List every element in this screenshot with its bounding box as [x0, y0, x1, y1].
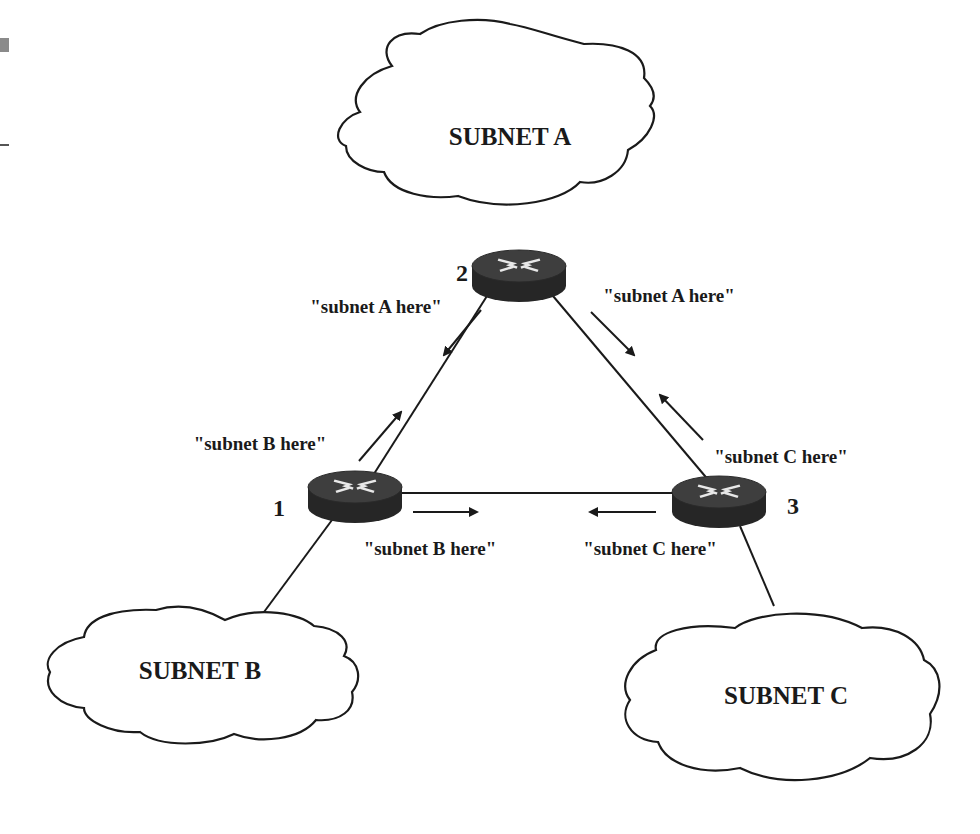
edge-artifact-square	[0, 38, 9, 52]
diagram-canvas: SUBNET A SUBNET B SUBNET C 2 1 3 "subnet…	[0, 0, 980, 834]
subnet-c-label: SUBNET C	[724, 682, 848, 709]
adv-label-3-to-1: "subnet C here"	[583, 538, 717, 559]
cloud-subnet-b: SUBNET B	[48, 607, 358, 744]
router-3	[672, 476, 766, 528]
router-3-number: 3	[787, 493, 799, 519]
link-1-subnet-b	[264, 520, 332, 612]
router-2-number: 2	[456, 260, 468, 286]
cloud-subnet-a: SUBNET A	[338, 20, 654, 204]
adv-label-3-to-2: "subnet C here"	[714, 446, 848, 467]
router-1-number: 1	[273, 495, 285, 521]
adv-label-1-to-2: "subnet B here"	[194, 433, 327, 454]
arrow-1-to-2	[359, 412, 401, 461]
arrow-3-to-2	[660, 395, 703, 440]
subnet-b-label: SUBNET B	[139, 657, 262, 684]
adv-label-2-to-3: "subnet A here"	[603, 285, 735, 306]
router-2	[472, 250, 566, 302]
link-2-3	[553, 296, 710, 482]
links	[264, 296, 774, 612]
link-3-subnet-c	[740, 526, 774, 606]
advertisement-arrows	[359, 310, 703, 512]
cloud-subnet-c: SUBNET C	[625, 614, 939, 780]
adv-label-2-to-1: "subnet A here"	[310, 296, 442, 317]
arrow-2-to-1	[444, 310, 481, 355]
subnet-a-label: SUBNET A	[449, 123, 572, 150]
adv-label-1-to-3: "subnet B here"	[364, 538, 497, 559]
router-1	[308, 471, 402, 523]
